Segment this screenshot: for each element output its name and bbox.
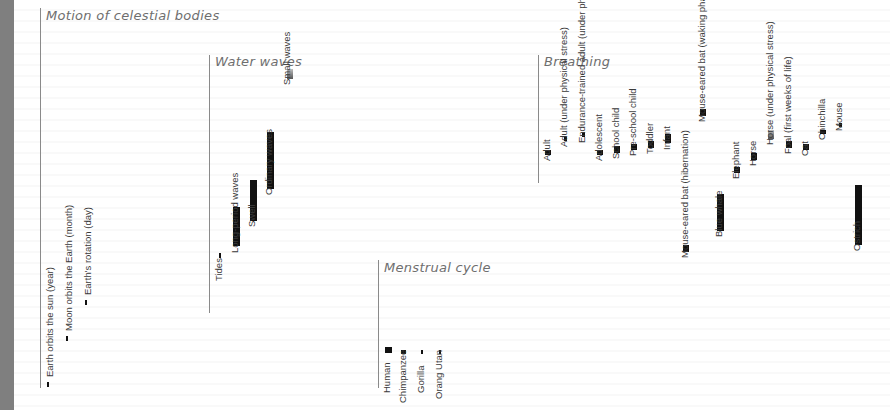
long-period-waves-label: Long-period waves — [230, 172, 240, 252]
foal-first-weeks-of-life-label: Foal (first weeks of life) — [783, 56, 793, 154]
pre-school-child-label: Pre-school child — [628, 89, 638, 157]
human-bar — [385, 347, 392, 353]
adult-under-physical-stress-label: Adult (under physical stress) — [559, 27, 569, 147]
orang-utan-label: Orang Utan — [434, 350, 444, 399]
mouse-eared-bat-waking-phase-label: Mouse-eared bat (waking phase) — [697, 0, 707, 122]
gorilla-label: Gorilla — [416, 366, 426, 393]
moon-orbits-the-earth-month-bar — [66, 336, 68, 341]
horse-label: Horse — [748, 140, 758, 165]
earth-s-rotation-day-bar — [85, 300, 87, 305]
blue-whale-label: Blue whale — [714, 190, 724, 236]
swell-label: Swell — [247, 204, 257, 227]
earth-orbits-the-sun-year-bar — [47, 382, 49, 387]
elephant-label: Elephant — [731, 142, 741, 180]
adult-label: Adult — [542, 139, 552, 161]
human-label: Human — [382, 362, 392, 393]
chimpanzee-label: Chimpanzee — [398, 350, 408, 403]
earth-orbits-the-sun-year-label: Earth orbits the sun (year) — [45, 267, 55, 377]
chinchilla-label: Chinchilla — [817, 99, 827, 140]
tides-label: Tides — [214, 258, 224, 281]
ostrich-label: Ostrich — [852, 221, 862, 251]
small-waves-label: Small waves — [282, 31, 292, 84]
moon-orbits-the-earth-month-label: Moon orbits the Earth (month) — [64, 205, 74, 331]
school-child-label: School child — [611, 107, 621, 158]
endurance-trained-adult-under-phys-stress-label: Endurance-trained adult (under phys. str… — [577, 0, 587, 143]
mouse-eared-bat-hibernation-label: Mouse-eared bat (hibernation) — [680, 130, 690, 258]
cat-label: Cat — [800, 142, 810, 157]
chart-area: Earth orbits the sun (year)Moon orbits t… — [0, 0, 890, 410]
infant-label: Infant — [662, 126, 672, 150]
horse-under-physical-stress-label: Horse (under physical stress) — [765, 21, 775, 145]
toddler-label: Toddler — [645, 123, 655, 154]
ordinary-waves-label: Ordinary waves — [264, 129, 274, 195]
adolescent-label: Adolescent — [594, 114, 604, 161]
gorilla-bar — [421, 350, 423, 354]
earth-s-rotation-day-label: Earth's rotation (day) — [83, 207, 93, 295]
mouse-label: Mouse — [834, 103, 844, 132]
